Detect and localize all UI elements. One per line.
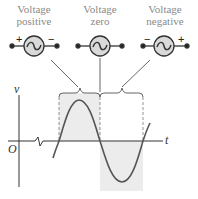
leader-line-negative [122, 60, 150, 87]
t-axis-label: t [165, 133, 168, 148]
negative-half-shade [100, 141, 143, 191]
brace-negative [100, 88, 143, 97]
leader-line-positive [51, 60, 78, 87]
plus-sign: + [16, 33, 22, 45]
minus-sign: − [48, 33, 54, 45]
ac-source-zero [76, 36, 124, 56]
v-axis-label: v [14, 82, 19, 97]
plus-sign: + [178, 33, 184, 45]
waveform-diagram: + − − + [0, 0, 198, 199]
minus-sign: − [144, 33, 150, 45]
origin-label: O [8, 142, 17, 157]
